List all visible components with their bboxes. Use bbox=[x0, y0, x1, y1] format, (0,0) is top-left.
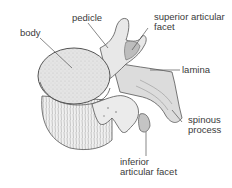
label-body: body bbox=[20, 28, 41, 38]
label-lamina: lamina bbox=[182, 65, 210, 75]
label-spinous-process-line2: process bbox=[188, 125, 221, 135]
superior-articular-facet-shape bbox=[125, 41, 141, 60]
leader-pedicle bbox=[88, 23, 108, 48]
label-pedicle: pedicle bbox=[72, 13, 102, 23]
vertebra-diagram: body pedicle superior articular facet la… bbox=[0, 0, 232, 188]
label-inferior-articular-facet-line2: articular facet bbox=[120, 167, 177, 177]
inferior-articular-facet-shape bbox=[139, 114, 151, 132]
label-superior-articular-facet-line2: facet bbox=[154, 22, 175, 32]
